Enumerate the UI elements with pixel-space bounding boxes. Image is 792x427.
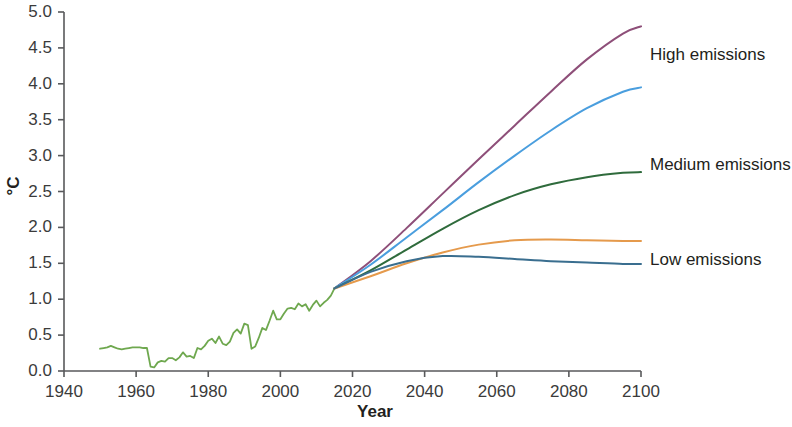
x-axis-tick-label: 2040 [390,382,460,402]
y-axis-tick-label: 4.5 [6,38,52,58]
chart-axes [58,12,641,377]
y-axis-tick-label: 4.0 [6,74,52,94]
chart-series-group [100,26,641,367]
y-axis-tick-label: 3.5 [6,110,52,130]
x-axis-tick-label: 2080 [534,382,604,402]
x-axis-tick-label: 2060 [462,382,532,402]
y-axis-ticks [58,12,64,371]
climate-projection-chart: 0.00.51.01.52.02.53.03.54.04.55.0 194019… [0,0,792,427]
series-label-low: Low emissions [650,250,762,270]
series-label-high: High emissions [650,45,765,65]
x-axis-tick-label: 2000 [245,382,315,402]
x-axis-tick-label: 2020 [318,382,388,402]
y-axis-tick-label: 5.0 [6,2,52,22]
series-line [100,288,334,367]
y-axis-tick-label: 0.5 [6,325,52,345]
series-label-medium: Medium emissions [650,155,791,175]
x-axis-tick-label: 1960 [101,382,171,402]
y-axis-title: °C [4,156,24,216]
y-axis-tick-label: 0.0 [6,361,52,381]
series-line [334,26,641,288]
y-axis-tick-label: 1.0 [6,289,52,309]
x-axis-ticks [64,371,641,377]
y-axis-tick-label: 1.5 [6,253,52,273]
x-axis-tick-label: 1940 [29,382,99,402]
y-axis-tick-label: 2.0 [6,217,52,237]
x-axis-title: Year [315,402,435,422]
x-axis-tick-label: 1980 [173,382,243,402]
x-axis-tick-label: 2100 [606,382,676,402]
series-line [334,172,641,288]
